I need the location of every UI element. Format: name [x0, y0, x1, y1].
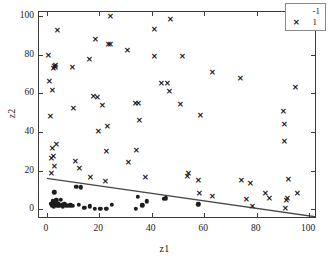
data-point-class-plus1: ✕: [237, 76, 243, 82]
data-point-class-minus1: [145, 199, 149, 203]
data-point-class-plus1: ✕: [45, 53, 51, 59]
data-point-class-plus1: ✕: [70, 106, 76, 112]
y-tick-label: 0: [4, 203, 34, 213]
x-tick-label: 80: [239, 223, 273, 233]
data-point-class-plus1: ✕: [124, 48, 130, 54]
data-point-class-plus1: ✕: [133, 148, 139, 154]
data-point-class-plus1: ✕: [142, 175, 148, 181]
legend-cross-icon: ✕: [290, 17, 304, 28]
data-point-class-minus1: [82, 206, 86, 210]
data-point-class-plus1: ✕: [99, 103, 105, 109]
data-point-class-plus1: ✕: [52, 63, 58, 69]
data-point-class-plus1: ✕: [196, 191, 202, 197]
legend-label-minus1: -1: [304, 6, 321, 17]
data-point-class-plus1: ✕: [284, 196, 290, 202]
y-tick-right: [311, 171, 315, 172]
data-point-class-plus1: ✕: [69, 65, 75, 71]
x-tick-label: 0: [29, 223, 63, 233]
data-point-class-plus1: ✕: [164, 81, 170, 87]
data-point-class-plus1: ✕: [135, 101, 141, 107]
data-point-class-plus1: ✕: [104, 124, 110, 130]
data-point-class-plus1: ✕: [177, 102, 183, 108]
x-tick-top: [47, 12, 48, 16]
x-tick: [47, 213, 48, 217]
data-point-class-minus1: [98, 207, 102, 211]
y-tick: [39, 209, 43, 210]
y-tick-label: 80: [4, 49, 34, 59]
y-tick-right: [311, 93, 315, 94]
y-tick-label: 20: [4, 165, 34, 175]
data-point-class-plus1: ✕: [54, 28, 60, 34]
legend-item-minus1[interactable]: -1: [290, 6, 321, 17]
y-tick-label: 100: [4, 10, 34, 20]
legend-item-plus1[interactable]: ✕ 1: [290, 17, 321, 28]
data-point-class-minus1: [79, 185, 83, 189]
data-point-class-plus1: ✕: [294, 191, 300, 197]
data-point-class-plus1: ✕: [158, 81, 164, 87]
data-point-class-plus1: ✕: [197, 113, 203, 119]
data-point-class-plus1: ✕: [51, 164, 57, 170]
x-tick: [99, 213, 100, 217]
data-point-class-plus1: ✕: [285, 177, 291, 183]
scatter-plot-figure: ✕✕✕✕✕✕✕✕✕✕✕✕✕✕✕✕✕✕✕✕✕✕✕✕✕✕✕✕✕✕✕✕✕✕✕✕✕✕✕✕…: [0, 0, 329, 265]
y-axis-title: z2: [6, 99, 17, 129]
x-tick-top: [99, 12, 100, 16]
data-point-class-minus1: [164, 196, 168, 200]
y-tick-label: 60: [4, 87, 34, 97]
data-point-class-plus1: ✕: [103, 149, 109, 155]
data-point-class-minus1: [196, 202, 200, 206]
x-tick-top: [204, 12, 205, 16]
data-point-class-plus1: ✕: [136, 118, 142, 124]
data-point-class-minus1: [140, 203, 144, 207]
data-point-class-minus1: [71, 204, 75, 208]
data-point-class-plus1: ✕: [179, 54, 185, 60]
data-point-class-plus1: ✕: [107, 14, 113, 20]
data-point-class-plus1: ✕: [209, 194, 215, 200]
y-tick: [39, 171, 43, 172]
data-point-class-plus1: ✕: [102, 179, 108, 185]
data-point-class-plus1: ✕: [280, 109, 286, 115]
y-tick-right: [311, 209, 315, 210]
data-point-class-plus1: ✕: [292, 85, 298, 91]
data-point-class-minus1: [77, 203, 81, 207]
x-tick-label: 60: [186, 223, 220, 233]
data-point-class-plus1: ✕: [50, 154, 56, 160]
x-tick: [309, 213, 310, 217]
data-point-class-plus1: ✕: [53, 142, 59, 148]
data-point-class-plus1: ✕: [87, 175, 93, 181]
data-point-class-plus1: ✕: [47, 114, 53, 120]
data-point-class-plus1: ✕: [107, 42, 113, 48]
data-point-class-plus1: ✕: [281, 139, 287, 145]
data-point-class-minus1: [133, 206, 137, 210]
y-tick: [39, 132, 43, 133]
data-point-class-plus1: ✕: [76, 166, 82, 172]
data-point-class-plus1: ✕: [167, 17, 173, 23]
x-tick-label: 100: [291, 223, 325, 233]
y-tick: [39, 55, 43, 56]
data-point-class-plus1: ✕: [185, 171, 191, 177]
data-point-class-plus1: ✕: [151, 54, 157, 60]
x-tick-top: [257, 12, 258, 16]
data-point-class-plus1: ✕: [46, 79, 52, 85]
y-tick-right: [311, 55, 315, 56]
x-tick: [152, 213, 153, 217]
legend[interactable]: -1 ✕ 1: [285, 3, 327, 31]
data-point-class-plus1: ✕: [151, 27, 157, 33]
plot-area: ✕✕✕✕✕✕✕✕✕✕✕✕✕✕✕✕✕✕✕✕✕✕✕✕✕✕✕✕✕✕✕✕✕✕✕✕✕✕✕✕…: [38, 11, 316, 218]
data-point-class-plus1: ✕: [125, 160, 131, 166]
y-tick: [39, 93, 43, 94]
data-point-class-minus1: [135, 195, 139, 199]
data-point-class-plus1: ✕: [95, 129, 101, 135]
data-point-class-plus1: ✕: [166, 89, 172, 95]
data-point-class-plus1: ✕: [49, 88, 55, 94]
data-point-class-plus1: ✕: [249, 204, 255, 210]
data-point-class-minus1: [92, 207, 96, 211]
data-point-class-plus1: ✕: [243, 197, 249, 203]
data-point-class-minus1: [52, 190, 56, 194]
x-tick: [204, 213, 205, 217]
data-point-class-plus1: ✕: [238, 178, 244, 184]
x-tick-label: 20: [81, 223, 115, 233]
y-tick: [39, 16, 43, 17]
data-point-class-plus1: ✕: [266, 196, 272, 202]
data-point-class-plus1: ✕: [86, 57, 92, 63]
